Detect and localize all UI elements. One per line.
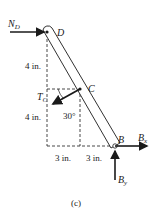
label-point-d: D — [56, 27, 65, 38]
label-tc: TC — [37, 91, 48, 104]
label-nd: ND — [7, 18, 20, 31]
dim-left-horizontal: 3 in. — [55, 153, 71, 163]
label-by: By — [118, 174, 128, 187]
figure-caption: (c) — [71, 198, 81, 208]
dim-upper-vertical: 4 in. — [25, 61, 41, 71]
dim-lower-vertical: 4 in. — [25, 112, 41, 122]
label-point-c: C — [88, 83, 95, 94]
angle-arc — [58, 89, 63, 98]
label-bx: Bx — [138, 132, 148, 145]
free-body-diagram: ND D C B TC Bx By 4 in. 4 in. 3 in. 3 in… — [0, 0, 157, 214]
label-point-b: B — [118, 134, 124, 145]
member-bar — [43, 26, 120, 148]
dim-right-horizontal: 3 in. — [86, 153, 102, 163]
pin-d — [45, 30, 48, 33]
angle-label: 30° — [63, 111, 76, 121]
force-tc-arrow — [53, 89, 80, 104]
